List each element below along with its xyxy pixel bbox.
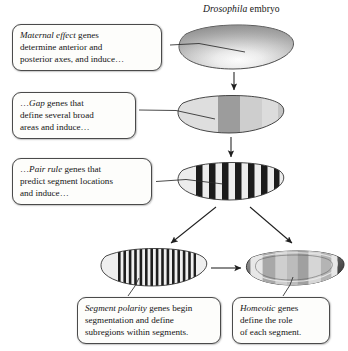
callout-gap-line1: …Gap genes that — [20, 97, 128, 109]
callout-gap-emphasis: Gap — [29, 98, 45, 108]
callout-gap[interactable]: …Gap genes that define several broad are… — [12, 92, 136, 139]
callout-homeotic-line1: Homeotic genes — [240, 302, 322, 314]
callout-pair-rule-line3: and induce… — [20, 187, 144, 199]
callout-pair-rule-emphasis: Pair rule — [29, 164, 62, 174]
arrow-pair-rule-to-segment-polarity — [171, 207, 216, 243]
callout-maternal-effect-line3: posterior axes, and induce… — [20, 53, 154, 65]
callout-pair-rule-line1: …Pair rule genes that — [20, 163, 144, 175]
callout-segment-polarity-line1: Segment polarity genes begin — [85, 302, 213, 314]
embryo-gap — [170, 90, 295, 140]
callout-segment-polarity-line2: segmentation and define — [85, 314, 213, 326]
figure-canvas: Drosophila embryo — [0, 0, 348, 351]
callout-maternal-effect-line2: determine anterior and — [20, 41, 154, 53]
callout-homeotic-line2: define the role — [240, 314, 322, 326]
callout-gap-line2: define several broad — [20, 109, 128, 121]
embryo-maternal — [179, 25, 293, 69]
callout-segment-polarity-line3: subregions within segments. — [85, 326, 213, 338]
arrow-pair-rule-to-homeotic — [250, 207, 292, 243]
figure-title-genus: Drosophila — [203, 3, 247, 14]
callout-segment-polarity-emphasis: Segment polarity — [85, 303, 147, 313]
callout-homeotic-line3: of each segment. — [240, 326, 322, 338]
callout-pair-rule-line2: predict segment locations — [20, 175, 144, 187]
callout-maternal-effect-emphasis: Maternal effect — [20, 30, 76, 40]
callout-homeotic[interactable]: Homeotic genes define the role of each s… — [232, 297, 330, 344]
callout-gap-line3: areas and induce… — [20, 121, 128, 133]
callout-homeotic-emphasis: Homeotic — [240, 303, 275, 313]
callout-pair-rule[interactable]: …Pair rule genes that predict segment lo… — [12, 158, 152, 205]
figure-title-rest: embryo — [247, 3, 279, 14]
callout-segment-polarity[interactable]: Segment polarity genes begin segmentatio… — [77, 297, 221, 344]
callout-maternal-effect-line1: Maternal effect genes — [20, 29, 154, 41]
callout-maternal-effect[interactable]: Maternal effect genes determine anterior… — [12, 24, 162, 71]
embryo-segment-polarity — [99, 244, 211, 290]
figure-title: Drosophila embryo — [203, 3, 280, 14]
embryo-homeotic — [246, 250, 344, 287]
embryo-pair-rule — [176, 158, 296, 204]
